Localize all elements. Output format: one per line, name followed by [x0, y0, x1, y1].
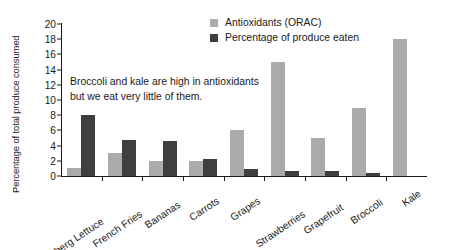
legend-item-eaten: Percentage of produce eaten — [210, 32, 359, 43]
legend: Antioxidants (ORAC) Percentage of produc… — [210, 17, 359, 47]
bar-eaten — [81, 115, 95, 176]
x-label-cell: Strawberries — [264, 178, 305, 248]
bar-orac — [108, 153, 122, 176]
x-label-cell: Broccoli — [346, 178, 387, 248]
bar-orac — [230, 130, 244, 176]
legend-label-eaten: Percentage of produce eaten — [225, 32, 359, 43]
legend-swatch-icon-orac — [210, 19, 218, 27]
legend-label-orac: Antioxidants (ORAC) — [225, 17, 321, 28]
x-label-cell: Carrots — [183, 178, 224, 248]
bar-eaten — [203, 159, 217, 176]
bar-eaten — [163, 141, 177, 176]
annotation-line-2: but we eat very little of them. — [70, 90, 259, 105]
legend-swatch-icon-eaten — [210, 34, 218, 42]
x-label-cell: Grapefruit — [305, 178, 346, 248]
bar-orac — [352, 108, 366, 176]
x-axis-category-label: Kale — [408, 182, 431, 203]
bar-eaten — [366, 173, 380, 176]
bar-orac — [311, 138, 325, 176]
bar-eaten — [122, 140, 136, 176]
x-label-cell: Kale — [386, 178, 427, 248]
legend-item-orac: Antioxidants (ORAC) — [210, 17, 359, 28]
bar-group — [386, 24, 427, 176]
y-axis-title: Percentage of total produce consumed — [10, 3, 24, 193]
annotation-line-1: Broccoli and kale are high in antioxidan… — [70, 75, 259, 90]
x-label-cell: French Fries — [102, 178, 143, 248]
bar-orac — [149, 161, 163, 176]
bar-orac — [189, 161, 203, 176]
bar-orac — [271, 62, 285, 176]
bar-chart: Percentage of total produce consumed 024… — [0, 0, 452, 250]
bar-orac — [67, 168, 81, 176]
x-label-cell: Bananas — [142, 178, 183, 248]
bar-eaten — [325, 171, 339, 176]
bar-eaten — [244, 169, 258, 176]
bar-eaten — [285, 171, 299, 176]
x-axis-labels: Iceberg LettuceFrench FriesBananasCarrot… — [61, 178, 427, 248]
chart-annotation: Broccoli and kale are high in antioxidan… — [70, 75, 259, 104]
bar-orac — [393, 39, 407, 176]
